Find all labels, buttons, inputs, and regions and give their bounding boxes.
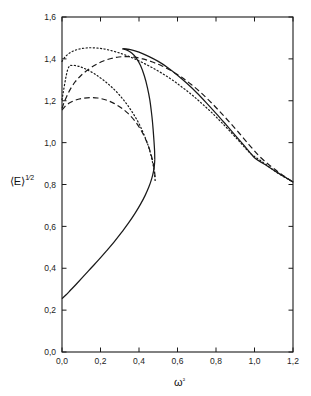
y-tick-label-3: 0,6 (44, 222, 56, 232)
plot-frame (62, 17, 293, 352)
x-tick-label-0: 0,0 (56, 356, 68, 366)
chart-figure: 0,00,20,40,60,81,01,20,00,20,40,60,81,01… (0, 0, 311, 396)
y-tick-label-6: 1,2 (44, 96, 56, 106)
y-axis-title: ⟨E⟩1⁄2 (10, 174, 34, 187)
x-tick-label-5: 1,0 (249, 356, 261, 366)
series-dotted-upper-curve (62, 48, 293, 182)
series-dotted-lower-curve (62, 65, 155, 180)
series-dashed-lower-curve (62, 98, 155, 181)
series-solid-lower-branch (62, 160, 155, 299)
y-axis-title-text: ⟨E⟩1⁄2 (10, 174, 34, 187)
x-axis-title: ω² (174, 376, 186, 388)
x-tick-label-2: 0,4 (133, 356, 145, 366)
x-tick-label-4: 0,8 (210, 356, 222, 366)
y-tick-label-7: 1,4 (44, 54, 56, 64)
y-tick-label-8: 1,6 (44, 12, 56, 22)
y-tick-label-4: 0,8 (44, 180, 56, 190)
y-tick-label-2: 0,4 (44, 263, 56, 273)
x-tick-label-1: 0,2 (95, 356, 107, 366)
x-tick-label-6: 1,2 (287, 356, 299, 366)
y-tick-label-1: 0,2 (44, 305, 56, 315)
y-tick-label-5: 1,0 (44, 138, 56, 148)
chart-canvas: 0,00,20,40,60,81,01,20,00,20,40,60,81,01… (0, 0, 311, 396)
series-solid-upper-branch (123, 49, 293, 182)
x-tick-label-3: 0,6 (172, 356, 184, 366)
y-tick-label-0: 0,0 (44, 347, 56, 357)
